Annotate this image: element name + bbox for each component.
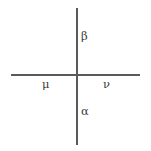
vertical-axis-line bbox=[76, 8, 78, 145]
label-alpha: α bbox=[81, 106, 89, 118]
horizontal-axis-line bbox=[11, 74, 140, 76]
greek-letter-axes-diagram: β α μ ν bbox=[0, 0, 151, 151]
label-mu: μ bbox=[42, 79, 49, 91]
label-nu: ν bbox=[103, 79, 110, 91]
label-beta: β bbox=[81, 31, 88, 43]
